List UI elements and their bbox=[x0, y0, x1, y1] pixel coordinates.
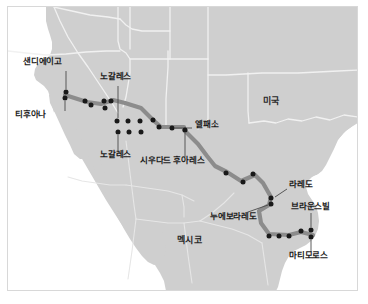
city-label-matamoros: 마티모로스 bbox=[289, 251, 328, 260]
city-label-laredo: 라레도 bbox=[289, 180, 312, 189]
city-dot bbox=[116, 130, 121, 135]
city-dot bbox=[102, 99, 107, 104]
city-dot bbox=[103, 106, 108, 111]
map-container: 샌디에이고 티후아나 노갈레스 노갈레스 시우다드 후아레스 엘패소 라레도 누… bbox=[0, 0, 368, 304]
map-graphics bbox=[8, 7, 358, 291]
city-dot bbox=[251, 172, 256, 177]
city-dot bbox=[224, 171, 229, 176]
city-dot bbox=[127, 130, 132, 135]
city-dot bbox=[267, 234, 272, 239]
country-label-mexico: 멕시코 bbox=[177, 236, 202, 245]
city-dot bbox=[138, 119, 143, 124]
map-frame: 샌디에이고 티후아나 노갈레스 노갈레스 시우다드 후아레스 엘패소 라레도 누… bbox=[7, 6, 358, 291]
city-label-nuevo-laredo: 누에보라레도 bbox=[210, 212, 257, 221]
city-dot bbox=[109, 99, 114, 104]
city-dot bbox=[183, 128, 188, 133]
city-label-tijuana: 티후아나 bbox=[15, 110, 46, 119]
city-dot bbox=[170, 126, 175, 131]
city-label-san-diego: 샌디에이고 bbox=[23, 57, 62, 66]
city-dot bbox=[83, 99, 88, 104]
country-label-usa: 미국 bbox=[263, 97, 280, 106]
city-dot bbox=[309, 235, 314, 240]
city-dot bbox=[269, 202, 274, 207]
city-dot bbox=[126, 119, 131, 124]
city-dot bbox=[63, 96, 68, 101]
city-dot bbox=[115, 119, 120, 124]
city-label-brownsville: 브라운스빌 bbox=[291, 202, 330, 211]
city-dot bbox=[277, 234, 282, 239]
city-dot bbox=[151, 118, 156, 123]
city-label-el-paso: 엘패소 bbox=[195, 120, 218, 129]
city-label-nogales-us: 노갈레스 bbox=[100, 72, 131, 81]
city-dot bbox=[241, 180, 246, 185]
city-dot bbox=[309, 228, 314, 233]
city-dot bbox=[299, 229, 304, 234]
city-label-ciudad-juarez: 시우다드 후아레스 bbox=[140, 156, 205, 165]
city-dot bbox=[139, 130, 144, 135]
city-dot bbox=[89, 103, 94, 108]
city-dot bbox=[287, 234, 292, 239]
city-dot bbox=[157, 125, 162, 130]
city-dot bbox=[64, 90, 69, 95]
city-dot bbox=[269, 196, 274, 201]
city-label-nogales-mx: 노갈레스 bbox=[100, 150, 131, 159]
